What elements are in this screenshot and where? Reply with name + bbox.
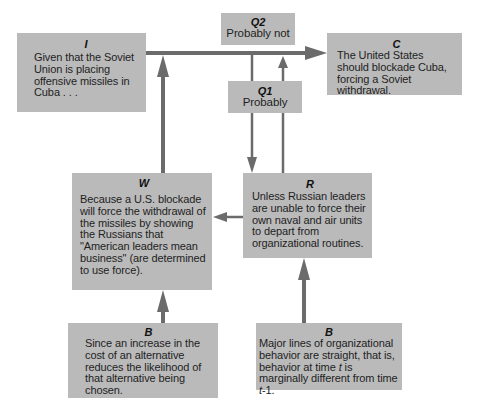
box-q2-text: Probably not (223, 28, 293, 40)
box-w-label: W (80, 177, 208, 189)
box-q2-qualifier: Q2 Probably not (221, 13, 295, 45)
box-b-backing-left: B Since an increase in the cost of an al… (68, 323, 218, 398)
box-b-right-text-3: -1. (262, 384, 275, 396)
arrowhead-c (305, 46, 327, 60)
box-q1-text: Probably (230, 97, 300, 109)
box-i-text: Given that the Soviet Union is placing o… (34, 52, 138, 99)
box-b-backing-right: B Major lines of organizational behavior… (256, 323, 402, 390)
box-b-right-text-1: Major lines of organizational behavior a… (259, 337, 395, 373)
box-w-text: Because a U.S. blockade will force the w… (80, 194, 208, 277)
box-i-grounds: I Given that the Soviet Union is placing… (17, 33, 146, 112)
box-c-text: The United States should blockade Cuba, … (337, 50, 456, 97)
arrowhead-r-down (247, 157, 257, 173)
arrowhead-line-up (278, 56, 288, 68)
arrowhead-w-left (213, 212, 227, 222)
box-w-warrant: W Because a U.S. blockade will force the… (72, 173, 212, 290)
box-b-left-text: Since an increase in the cost of an alte… (85, 338, 212, 397)
box-q1-qualifier: Q1 Probably (228, 81, 302, 113)
box-r-text: Unless Russian leaders are unable to for… (252, 191, 368, 250)
box-i-label: I (34, 38, 138, 50)
box-b-right-text: Major lines of organizational behavior a… (259, 338, 399, 397)
arrowhead-r-from-b (298, 258, 310, 280)
box-r-rebuttal: R Unless Russian leaders are unable to f… (243, 173, 372, 258)
arrowhead-w-up (157, 55, 169, 77)
box-c-claim: C The United States should blockade Cuba… (327, 33, 462, 95)
arrowhead-w-from-b (157, 290, 169, 312)
box-r-label: R (252, 178, 368, 190)
